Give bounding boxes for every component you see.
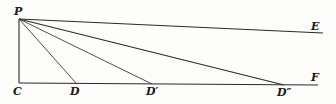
label-f: F xyxy=(310,71,320,84)
segment-pd1 xyxy=(19,19,152,84)
label-c: C xyxy=(13,85,22,98)
label-d-double-prime: D″ xyxy=(276,86,292,99)
diagram-canvas: P C D D′ D″ E F xyxy=(0,0,336,104)
label-d: D xyxy=(69,85,80,98)
segment-pd xyxy=(19,19,76,83)
segment-cf xyxy=(19,83,318,85)
label-e: E xyxy=(310,20,320,33)
label-d-prime: D′ xyxy=(145,85,159,98)
geometry-diagram: P C D D′ D″ E F xyxy=(0,0,336,104)
label-p: P xyxy=(13,5,23,18)
